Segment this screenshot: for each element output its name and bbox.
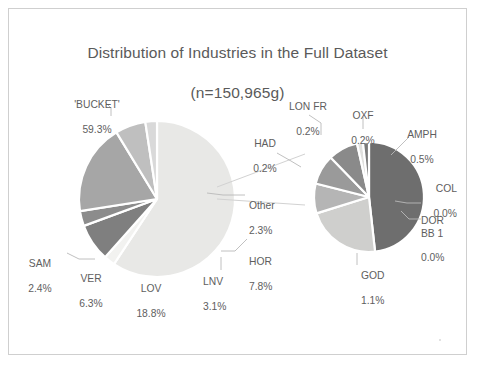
label-amph-name: AMPH [407,129,437,140]
label-dor-name: DOR BB 1 [421,215,444,238]
label-dor: DOR BB 1 0.0% [421,203,467,264]
label-other-pct: 2.3% [249,225,272,236]
label-bucket-name: 'BUCKET' [74,99,120,110]
label-ver-name: VER [80,273,101,284]
label-sam-name: SAM [29,258,51,269]
page-speck [439,339,441,341]
main-pie [79,121,235,277]
label-god: GOD 1.1% [361,258,405,307]
label-god-name: GOD [361,270,384,281]
label-hor: HOR 7.8% [249,244,293,293]
label-ver-pct: 6.3% [79,298,102,309]
label-dor-pct: 0.0% [421,252,444,263]
chart-frame: Distribution of Industries in the Full D… [8,8,467,355]
label-amph: AMPH 0.5% [395,117,449,166]
label-had-name: HAD [254,138,276,149]
label-other: Other 2.3% [249,188,301,237]
label-amph-pct: 0.5% [410,154,433,165]
label-oxf-pct: 0.2% [351,135,374,146]
label-ver: VER 6.3% [71,261,111,310]
label-oxf-name: OXF [352,110,373,121]
label-bucket: 'BUCKET' 59.3% [55,87,139,136]
label-god-pct: 1.1% [361,295,384,306]
label-lonfr: LON FR 0.2% [279,89,337,138]
label-lonfr-pct: 0.2% [296,126,319,137]
label-lnv: LNV 3.1% [203,264,243,313]
label-sam-pct: 2.4% [28,283,51,294]
label-lnv-name: LNV [203,276,223,287]
label-had: HAD 0.2% [243,126,287,175]
label-col-name: COL [436,183,457,194]
label-lnv-pct: 3.1% [203,301,226,312]
label-sam: SAM 2.4% [17,246,63,295]
label-hor-name: HOR [249,256,272,267]
label-lonfr-name: LON FR [289,101,327,112]
leader-sam [67,253,95,259]
label-other-name: Other [249,200,275,211]
label-oxf: OXF 0.2% [341,98,385,147]
label-lov-name: LOV [141,283,162,294]
label-hor-pct: 7.8% [249,281,272,292]
label-lov: LOV 18.8% [127,271,175,320]
label-had-pct: 0.2% [253,163,276,174]
label-lov-pct: 18.8% [136,308,165,319]
leader-hor [221,239,247,251]
label-bucket-pct: 59.3% [82,124,111,135]
